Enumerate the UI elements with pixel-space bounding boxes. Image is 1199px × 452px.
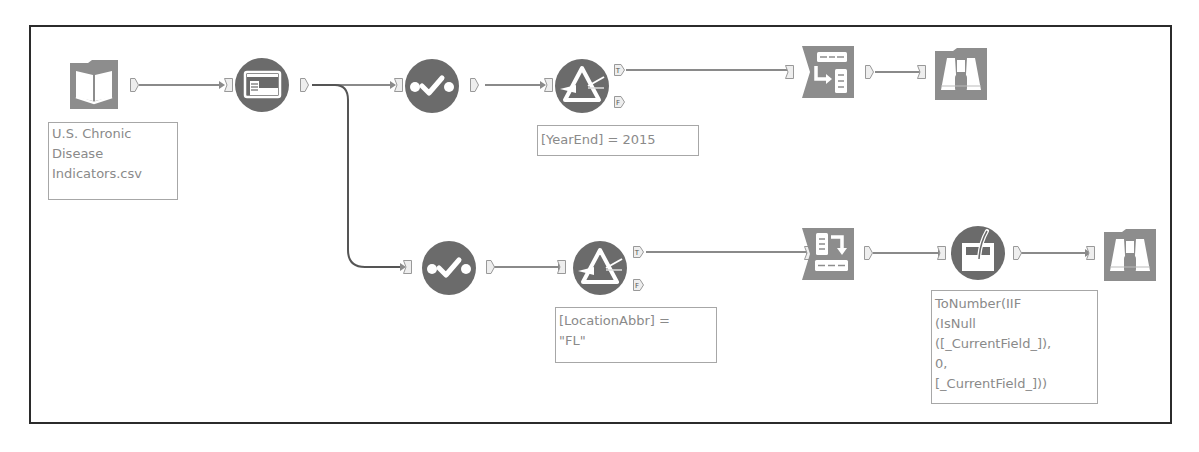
- annotation-multi-field-formula: ToNumber(IIF (IsNull ([_CurrentField_]),…: [931, 290, 1098, 404]
- sample-tool-bottom[interactable]: [421, 240, 477, 296]
- output-anchor[interactable]: [300, 78, 309, 92]
- beaker-formula-icon: [950, 225, 1006, 281]
- input-anchor[interactable]: [937, 246, 946, 260]
- false-anchor[interactable]: F: [614, 96, 625, 108]
- input-anchor[interactable]: [224, 78, 233, 92]
- select-tool[interactable]: [234, 57, 290, 113]
- crosstab-tool[interactable]: [800, 44, 856, 100]
- true-anchor[interactable]: T: [614, 64, 625, 76]
- svg-text:F: F: [635, 282, 639, 290]
- svg-text:T: T: [615, 67, 621, 75]
- input-anchor[interactable]: [1086, 246, 1095, 260]
- true-anchor[interactable]: T: [633, 246, 644, 258]
- output-anchor[interactable]: [865, 65, 874, 79]
- check-dots-icon: [404, 58, 460, 114]
- input-anchor[interactable]: [403, 260, 412, 274]
- filter-tool-top[interactable]: [554, 58, 610, 114]
- prism-filter-icon: [554, 58, 610, 114]
- annotation-input-file: U.S. Chronic Disease Indicators.csv: [48, 122, 178, 200]
- browse-tool-top[interactable]: [933, 46, 989, 102]
- select-icon: [234, 57, 290, 113]
- binoculars-icon: [933, 46, 989, 102]
- check-dots-icon: [421, 240, 477, 296]
- output-anchor[interactable]: [864, 246, 873, 260]
- browse-tool-bottom[interactable]: [1102, 227, 1158, 283]
- input-data-tool[interactable]: [66, 57, 122, 113]
- transpose-tool[interactable]: [800, 226, 856, 282]
- multi-field-formula-tool[interactable]: [950, 225, 1006, 281]
- input-anchor[interactable]: [785, 65, 794, 79]
- input-anchor[interactable]: [394, 78, 403, 92]
- output-anchor[interactable]: [486, 260, 495, 274]
- annotation-filter-bottom: [LocationAbbr] = "FL": [555, 307, 717, 363]
- transpose-icon: [800, 226, 856, 282]
- annotation-filter-top: [YearEnd] = 2015: [537, 125, 699, 156]
- input-anchor[interactable]: [544, 78, 553, 92]
- output-anchor[interactable]: [130, 78, 139, 92]
- prism-filter-icon: [572, 240, 628, 296]
- output-anchor[interactable]: [1013, 246, 1022, 260]
- crosstab-icon: [800, 44, 856, 100]
- book-icon: [66, 57, 122, 113]
- svg-text:T: T: [634, 249, 640, 257]
- filter-tool-bottom[interactable]: [572, 240, 628, 296]
- sample-tool-top[interactable]: [404, 58, 460, 114]
- binoculars-icon: [1102, 227, 1158, 283]
- false-anchor[interactable]: F: [633, 279, 644, 291]
- output-anchor[interactable]: [470, 78, 479, 92]
- input-anchor[interactable]: [557, 260, 566, 274]
- svg-text:F: F: [616, 99, 620, 107]
- input-anchor[interactable]: [917, 65, 926, 79]
